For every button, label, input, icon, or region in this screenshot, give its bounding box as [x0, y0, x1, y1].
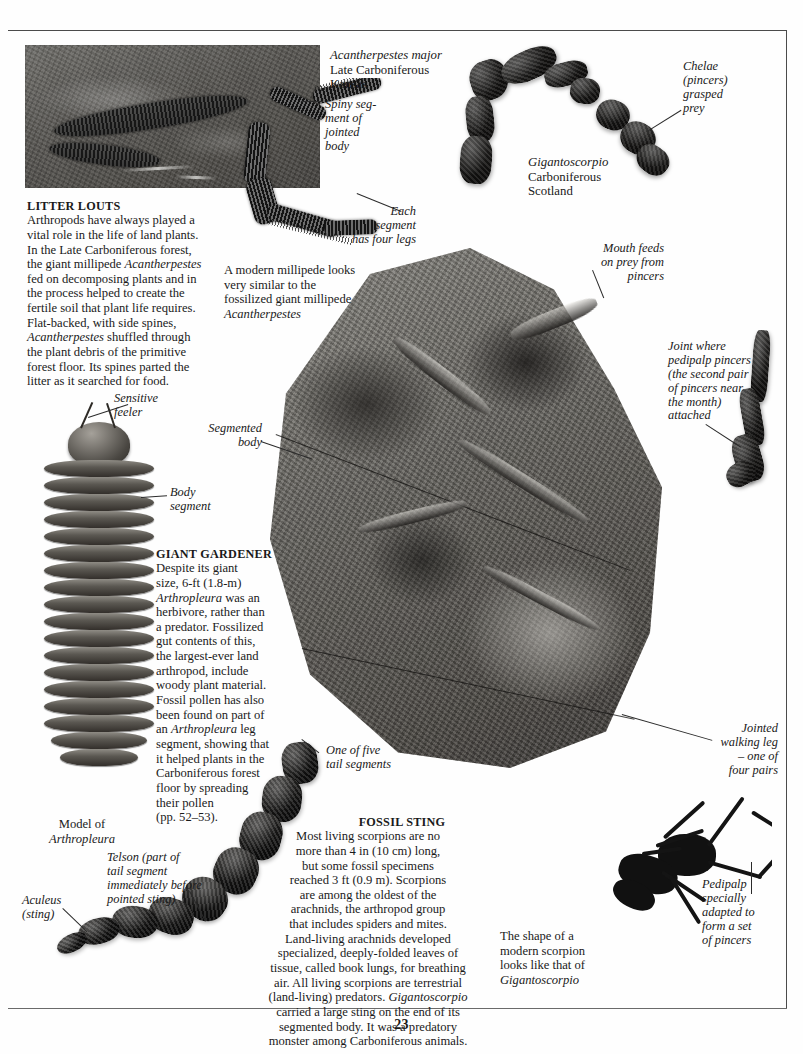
gigantoscorpio-fossil-slab-photo [262, 248, 662, 768]
callout-segmented-body: Segmentedbody [186, 422, 262, 450]
callout-telson: Telson (part oftail segmentimmediately b… [107, 851, 217, 907]
article-line: more than 4 in (10 cm) long, [252, 844, 484, 859]
caption-modern-millipede: A modern millipede looks very similar to… [224, 263, 366, 322]
caption-text: A modern millipede looks very similar to… [224, 263, 355, 306]
article-line: air. All living scorpions are terrestria… [252, 976, 484, 991]
article-line: Carboniferous forest [156, 766, 280, 781]
article-giant-gardener: GIANT GARDENER Despite its giantsize, 6-… [156, 547, 280, 825]
caption-italic-term: Arthropleura [49, 832, 115, 846]
specimen-age: Carboniferous [528, 170, 601, 184]
article-line: gut contents of this, [156, 634, 280, 649]
article-line: segment, showing that [156, 737, 280, 752]
article-line: Arthropleura was an [156, 591, 280, 606]
article-line: Land-living arachnids developed [252, 932, 484, 947]
article-line: fertile soil that plant life requires. [27, 301, 223, 316]
article-line: that includes spiders and mites. [252, 917, 484, 932]
article-line: it helped plants in the [156, 752, 280, 767]
article-line: monster among Carboniferous animals. [252, 1034, 484, 1049]
article-litter-louts: LITTER LOUTS Arthropods have always play… [27, 199, 223, 389]
specimen-place: Kansas [330, 77, 367, 91]
millipede-body-part [243, 121, 271, 185]
article-body: Despite its giantsize, 6-ft (1.8-m)Arthr… [156, 561, 280, 825]
callout-sensitive-feeler: Sensitivefeeler [114, 392, 184, 420]
article-line: reached 3 ft (0.9 m). Scorpions [252, 873, 484, 888]
article-body: Arthropods have always played avital rol… [27, 213, 223, 389]
specimen-label-millipede: Acantherpestes major Late Carboniferous … [330, 48, 460, 92]
caption-italic-term: Acantherpestes [224, 307, 301, 321]
article-line: woody plant material. [156, 678, 280, 693]
specimen-age: Late Carboniferous [330, 63, 429, 77]
page-rule-top [8, 30, 787, 31]
article-line: vital role in the life of land plants. [27, 228, 223, 243]
caption-italic-term: Gigantoscorpio [500, 973, 579, 987]
callout-spiny-segment: Spiny seg-ment ofjointedbody [325, 98, 395, 154]
caption-text: Model of [59, 817, 106, 831]
callout-pedipalp: Pedipalpspeciallyadapted toform a setof … [702, 878, 778, 947]
fossil-millipede-upper [52, 88, 250, 144]
callout-joint-where: Joint wherepedipalp pincers(the second p… [668, 340, 766, 423]
article-line: (land-living) predators. Gigantoscorpio [252, 990, 484, 1005]
specimen-label-scorpion: Gigantoscorpio Carboniferous Scotland [528, 155, 648, 199]
article-line: the plant debris of the primitive [27, 345, 223, 360]
scorpion-walking-leg [668, 875, 701, 925]
scorpion-fossil-fragment [568, 76, 601, 106]
article-line: their pollen [156, 796, 280, 811]
page-number: 23 [0, 1017, 803, 1033]
callout-one-of-five: One of fivetail segments [326, 744, 408, 772]
slab-streak [175, 175, 217, 179]
specimen-species: Gigantoscorpio [528, 155, 608, 169]
article-line: arachnids, the arthropod group [252, 902, 484, 917]
article-line: Fossil pollen has also [156, 693, 280, 708]
article-heading: GIANT GARDENER [156, 547, 280, 561]
article-line: Acantherpestes shuffled through [27, 330, 223, 345]
article-fossil-sting: FOSSIL STING Most living scorpions are n… [252, 815, 484, 1049]
specimen-place: Scotland [528, 184, 573, 198]
callout-chelae: Chelae(pincers)graspedprey [683, 60, 763, 116]
article-line: are among the oldest of the [252, 888, 484, 903]
article-heading: LITTER LOUTS [27, 199, 223, 213]
scorpion-fossil-fragment [458, 135, 493, 185]
article-line: arthropod, include [156, 664, 280, 679]
caption-modern-scorpion-shape: The shape of a modern scorpion looks lik… [500, 929, 604, 988]
callout-mouth-feeds: Mouth feedson prey frompincers [580, 242, 664, 284]
caption-model-of: Model of Arthropleura [22, 817, 142, 846]
article-line: herbivore, rather than [156, 605, 280, 620]
scorpion-pedipalp-claw [751, 810, 772, 830]
article-line: been found on part of [156, 708, 280, 723]
article-line: specialized, deeply-folded leaves of [252, 946, 484, 961]
article-line: Despite its giant [156, 561, 280, 576]
leader-line-chelae [647, 110, 681, 132]
scorpion-pedipalp-claw [757, 857, 772, 879]
article-line: forest floor. Its spines parted the [27, 360, 223, 375]
leader-line-spiny-segment [301, 101, 323, 102]
article-line: fed on decomposing plants and in [27, 272, 223, 287]
article-line: an Arthropleura leg [156, 722, 280, 737]
article-line: the largest-ever land [156, 649, 280, 664]
article-line: size, 6-ft (1.8-m) [156, 576, 280, 591]
article-line: Flat-backed, with side spines, [27, 316, 223, 331]
callout-jointed-walking-leg: Jointedwalking leg– one offour pairs [700, 722, 778, 778]
article-line: a predator. Fossilized [156, 620, 280, 635]
article-line: Most living scorpions are no [252, 829, 484, 844]
callout-body-segment: Bodysegment [170, 486, 236, 514]
page-rule-right [786, 30, 787, 1008]
callout-each-segment: Eachsegmenthas four legs [330, 205, 416, 247]
article-line: the giant millipede Acantherpestes [27, 257, 223, 272]
arthropleura-model-photo [30, 400, 170, 790]
article-line: litter as it searched for food. [27, 374, 223, 389]
article-line: the process helped to create the [27, 286, 223, 301]
scorpion-pedipalp [706, 796, 745, 847]
specimen-species: Acantherpestes major [330, 48, 442, 62]
callout-aculeus: Aculeus(sting) [22, 894, 90, 922]
caption-text: The shape of a modern scorpion looks lik… [500, 929, 585, 972]
book-page: Acantherpestes major Late Carboniferous … [0, 0, 803, 1054]
article-line: Arthropods have always played a [27, 213, 223, 228]
article-line: floor by spreading [156, 781, 280, 796]
article-line: In the Late Carboniferous forest, [27, 243, 223, 258]
article-line: tissue, called book lungs, for breathing [252, 961, 484, 976]
article-heading: FOSSIL STING [320, 815, 484, 829]
article-line: but some fossil specimens [252, 859, 484, 874]
